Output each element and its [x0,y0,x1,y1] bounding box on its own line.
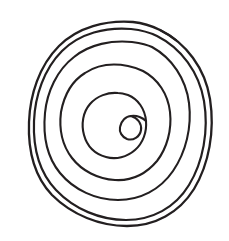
spiral-illustration [0,0,229,241]
drawing-canvas [0,0,229,241]
